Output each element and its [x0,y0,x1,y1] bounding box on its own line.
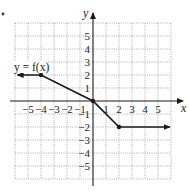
function-label: y = f(x) [14,61,49,74]
y-tick-label: −1 [78,108,90,120]
y-axis-label: y [82,6,89,20]
x-tick-label: 4 [142,103,148,115]
x-tick-label: −4 [35,103,47,115]
y-tick-label: 4 [85,43,91,55]
x-tick-label: −5 [22,103,34,115]
data-point [117,125,121,129]
x-tick-label: 5 [155,103,161,115]
x-tick-label: 2 [116,103,122,115]
y-tick-label: 5 [85,30,91,42]
x-tick-label: −3 [48,103,60,115]
data-point [91,99,95,103]
x-tick-labels: −5−4−3−2−112345 [22,103,161,115]
x-tick-label: −2 [61,103,73,115]
y-tick-label: 2 [85,69,91,81]
y-tick-label: 1 [85,82,91,94]
y-tick-label: −4 [78,147,90,159]
y-tick-label: −3 [78,134,90,146]
function-graph: x y −5−4−3−2−112345 54321−1−2−3−4−5 y = … [0,0,189,193]
x-axis-label: x [180,101,187,115]
y-tick-label: 3 [85,56,91,68]
x-tick-label: 3 [129,103,135,115]
y-tick-label: −5 [78,160,90,172]
item-bullet [2,13,5,16]
y-tick-label: −2 [78,121,90,133]
data-point [39,73,43,77]
